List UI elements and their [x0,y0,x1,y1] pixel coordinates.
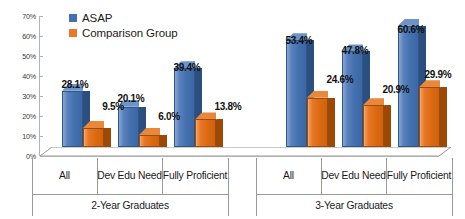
y-tick-label-50: 50% [22,52,36,61]
bar-front-face [83,128,104,147]
group-label-row: 2-Year Graduates 3-Year Graduates [31,194,453,216]
y-tick-label-60: 60% [22,32,36,41]
data-label-comparison-3yr-devedu: 20.9% [383,84,410,95]
data-label-asap-3yr-devedu: 47.8% [342,45,369,56]
bar-comparison-3yr-devedu[interactable] [363,105,384,147]
data-label-asap-2yr-all: 28.1% [62,79,89,90]
legend-item-comparison-group[interactable]: Comparison Group [69,25,178,40]
bar-comparison-2yr-all[interactable] [83,128,104,147]
data-label-asap-2yr-fullyproficient: 39.4% [174,62,201,73]
bar-front-face [118,107,139,147]
bar-side-face [160,135,167,147]
category-label-2yr-fullyproficient: Fully Proficient [162,158,228,194]
y-tick-label-70: 70% [22,12,36,21]
legend-swatch-icon-comparison-group [69,29,77,37]
category-label-3yr-all: All [256,158,321,194]
y-tick-label-10: 10% [22,132,36,141]
bar-comparison-3yr-fullyproficient[interactable] [419,87,440,147]
bar-front-face [363,105,384,147]
data-label-comparison-3yr-fullyproficient: 29.9% [425,69,452,80]
bar-comparison-2yr-devedu[interactable] [139,135,160,147]
legend-label-comparison-group: Comparison Group [82,27,178,39]
category-label-spacer [228,158,256,194]
group-label-3-year-graduates: 3-Year Graduates [256,194,452,216]
bar-side-face [328,98,335,147]
legend: ASAP Comparison Group [69,10,178,40]
data-label-comparison-2yr-fullyproficient: 13.8% [215,101,242,112]
data-label-asap-3yr-all: 53.4% [286,35,313,46]
bar-side-face [440,87,447,147]
y-tick-label-30: 30% [22,92,36,101]
bar-comparison-2yr-fullyproficient[interactable] [195,119,216,147]
category-label-2yr-all: All [32,158,97,194]
bar-asap-3yr-all[interactable] [286,40,307,147]
bar-front-face [139,135,160,147]
category-axis: All Dev Edu Need Fully Proficient All De… [31,158,453,216]
legend-label-asap: ASAP [82,12,112,24]
bar-front-face [419,87,440,147]
bar-asap-2yr-fullyproficient[interactable] [174,68,195,147]
category-label-3yr-fullyproficient: Fully Proficient [386,158,452,194]
bar-side-face [384,105,391,147]
bar-front-face [174,68,195,147]
clustered-column-chart-3d: 70% 60% 50% 40% 30% 20% 10% 0% [0,0,465,219]
y-tick-label-40: 40% [22,72,36,81]
bar-front-face [342,51,363,147]
legend-swatch-icon-asap [69,14,77,22]
category-label-2yr-devedu: Dev Edu Need [97,158,162,194]
bar-asap-2yr-devedu[interactable] [118,107,139,147]
bar-side-face [104,128,111,147]
bar-side-face [216,119,223,147]
data-label-asap-3yr-fullyproficient: 60.6% [398,24,425,35]
data-label-comparison-2yr-devedu: 6.0% [158,111,180,122]
bar-asap-3yr-devedu[interactable] [342,51,363,147]
y-tick-label-20: 20% [22,112,36,121]
group-label-2-year-graduates: 2-Year Graduates [32,194,228,216]
category-label-3yr-devedu: Dev Edu Need [321,158,386,194]
data-label-asap-2yr-devedu: 20.1% [118,93,145,104]
bar-front-face [307,98,328,147]
bar-asap-2yr-all[interactable] [62,91,83,147]
bar-front-face [62,91,83,147]
category-label-row: All Dev Edu Need Fully Proficient All De… [31,158,453,194]
bar-front-face [286,40,307,147]
bar-comparison-3yr-all[interactable] [307,98,328,147]
y-axis: 70% 60% 50% 40% 30% 20% 10% 0% [0,0,38,160]
legend-item-asap[interactable]: ASAP [69,10,178,25]
data-label-comparison-3yr-all: 24.6% [327,74,354,85]
bar-front-face [195,119,216,147]
